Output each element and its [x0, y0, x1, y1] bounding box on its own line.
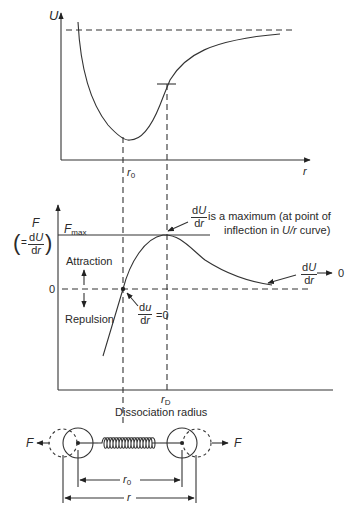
zero-annot-num: du [138, 302, 152, 315]
r-axis-label: r [303, 166, 307, 177]
max-annot-pointer [168, 222, 188, 231]
zero-annot-pointer [127, 293, 138, 306]
zero-annot-den: dr [139, 315, 151, 327]
r0-subscript: 0 [131, 171, 135, 180]
right-force-label: F [234, 437, 241, 449]
max-annot-line2-ital: U/r [282, 224, 297, 236]
dissociation-label: Dissociation radius [115, 407, 207, 418]
tail-annot-num: dU [301, 262, 317, 275]
u-axis-label: U [49, 9, 58, 22]
f-axis-fraction: ddUU dr [28, 232, 44, 256]
max-annot-fraction: dU dr [191, 205, 207, 229]
fmax-label: Fmax [64, 223, 86, 237]
r0-label-top: r0 [127, 167, 135, 180]
attraction-label: Attraction [66, 256, 112, 267]
fmax-subscript: max [71, 228, 86, 237]
spring [98, 438, 160, 449]
max-annot-line2-pre: inflection in [224, 224, 282, 236]
force-curve [103, 235, 272, 356]
left-atom [49, 428, 98, 458]
max-annot-num: dU [191, 205, 207, 218]
tail-annot-zero: 0 [338, 268, 344, 279]
zero-annot-fraction: du dr [138, 302, 152, 326]
r-label-spring: r [127, 492, 131, 503]
right-atom-center [181, 442, 184, 445]
f-axis-num: ddUU [28, 232, 44, 245]
f-axis-paren-close: ) [45, 232, 52, 254]
r0-spring-subscript: 0 [127, 478, 131, 487]
potential-energy-curve [78, 22, 280, 140]
max-annot-line1: is a maximum (at point of [208, 211, 331, 222]
r0-label-spring: r0 [123, 474, 131, 487]
f-axis-eq: = [21, 238, 27, 248]
left-atom-center [77, 442, 80, 445]
zero-annot-eq: =0 [156, 310, 169, 321]
left-force-label: F [26, 437, 33, 449]
tail-annot-fraction: dU dr [301, 262, 317, 286]
tail-annot-pointer [268, 275, 296, 283]
f-axis-paren-open: ( [13, 232, 20, 254]
equilibrium-point [121, 287, 125, 291]
f-axis-label: F [32, 217, 39, 229]
tail-annot-den: dr [303, 275, 315, 287]
max-annot-den: dr [193, 218, 205, 230]
max-annot-line2-post: curve) [297, 224, 331, 236]
repulsion-label: Repulsion [65, 314, 114, 325]
diagram-canvas [0, 0, 359, 510]
zero-label: 0 [49, 284, 55, 295]
max-annot-line2: inflection in U/r curve) [224, 225, 330, 236]
right-atom [160, 428, 211, 458]
f-axis-den: dr [30, 245, 42, 257]
